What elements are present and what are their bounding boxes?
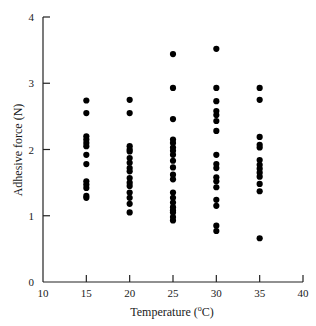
data-point xyxy=(83,195,89,201)
data-point xyxy=(83,152,89,158)
data-point xyxy=(257,235,263,241)
data-point xyxy=(213,165,219,171)
data-point xyxy=(83,161,89,167)
data-point xyxy=(213,178,219,184)
data-point xyxy=(213,85,219,91)
data-point xyxy=(213,223,219,229)
y-axis-title: Adhesive force (N) xyxy=(11,104,25,197)
x-axis-title: Temperature (oC) xyxy=(130,304,213,319)
x-tick-label: 40 xyxy=(298,287,310,299)
data-point xyxy=(127,201,133,207)
x-tick-label: 35 xyxy=(254,287,266,299)
data-point xyxy=(170,176,176,182)
data-point xyxy=(213,118,219,124)
data-point xyxy=(170,189,176,195)
data-point xyxy=(170,85,176,91)
y-tick-label: 1 xyxy=(29,210,35,222)
y-tick-label: 2 xyxy=(29,144,35,156)
x-tick-label: 30 xyxy=(211,287,223,299)
data-point xyxy=(213,112,219,118)
data-point xyxy=(213,197,219,203)
data-point xyxy=(213,98,219,104)
data-point xyxy=(127,189,133,195)
data-point xyxy=(170,116,176,122)
x-tick-label: 10 xyxy=(38,287,50,299)
data-point xyxy=(170,51,176,57)
data-point xyxy=(213,152,219,158)
x-tick-label: 15 xyxy=(81,287,93,299)
data-point xyxy=(127,97,133,103)
scatter-chart: 0123410152025303540 Adhesive force (N) T… xyxy=(0,0,316,326)
y-tick-label: 3 xyxy=(29,77,35,89)
data-point xyxy=(127,148,133,154)
data-point xyxy=(257,144,263,150)
data-point xyxy=(83,143,89,149)
data-point xyxy=(213,184,219,190)
y-tick-label: 0 xyxy=(29,276,35,288)
data-point xyxy=(127,168,133,174)
data-point xyxy=(257,174,263,180)
data-point xyxy=(170,158,176,164)
axes: 0123410152025303540 xyxy=(29,11,310,299)
data-points xyxy=(83,46,263,242)
data-point xyxy=(257,97,263,103)
data-point xyxy=(257,188,263,194)
data-point xyxy=(83,110,89,116)
data-point xyxy=(170,152,176,158)
data-point xyxy=(83,97,89,103)
y-tick-label: 4 xyxy=(29,11,35,23)
data-point xyxy=(213,128,219,134)
data-point xyxy=(213,228,219,234)
data-point xyxy=(257,134,263,140)
data-point xyxy=(83,185,89,191)
x-tick-label: 20 xyxy=(124,287,136,299)
data-point xyxy=(127,160,133,166)
data-point xyxy=(170,217,176,223)
data-point xyxy=(257,85,263,91)
data-point xyxy=(257,181,263,187)
data-point xyxy=(213,46,219,52)
data-point xyxy=(127,209,133,215)
data-point xyxy=(213,203,219,209)
data-point xyxy=(127,110,133,116)
data-point xyxy=(127,183,133,189)
x-tick-label: 25 xyxy=(168,287,180,299)
data-point xyxy=(170,164,176,170)
data-point xyxy=(127,195,133,201)
